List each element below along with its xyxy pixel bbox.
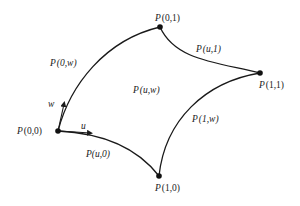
- w-direction-arrow: [58, 104, 64, 131]
- label-u-direction: u: [81, 121, 86, 131]
- label-edge-0w: P(0,w): [49, 58, 77, 69]
- label-p10: P(1,0): [154, 183, 180, 194]
- corner-point-p00: [55, 128, 61, 134]
- edge-curve-1w: [159, 73, 260, 176]
- edge-curve-0w: [58, 27, 160, 131]
- label-edge-u1: P(u,1): [195, 44, 221, 55]
- corner-point-p01: [157, 24, 163, 30]
- label-p01: P(0,1): [154, 13, 180, 24]
- label-edge-1w: P(1,w): [191, 114, 219, 125]
- label-edge-u0: P(u,0): [85, 149, 110, 160]
- corner-point-p11: [257, 70, 263, 76]
- label-surface: P(u,w): [132, 85, 160, 96]
- coons-patch-diagram: P(0,0) P(0,1) P(1,1) P(1,0) P(0,w) P(u,1…: [0, 0, 300, 206]
- label-p11: P(1,1): [258, 80, 284, 91]
- corner-point-p10: [156, 173, 162, 179]
- label-w-direction: w: [48, 99, 55, 109]
- label-p00: P(0,0): [16, 126, 42, 137]
